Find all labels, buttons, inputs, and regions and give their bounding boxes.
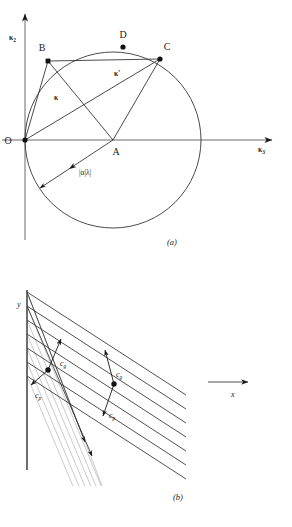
magnitude-label: |α|λ|	[79, 168, 91, 177]
ray-arrows	[27, 292, 92, 456]
velocity-label-cg-left: cg	[60, 359, 67, 369]
vector-label-kappa: κ	[54, 93, 59, 102]
velocity-label-cg-right: cg	[116, 370, 123, 380]
panel-b-y-axis-label: y	[16, 300, 21, 309]
point-label-D: D	[119, 29, 126, 40]
panel-a-x-axis-label: κ3	[258, 145, 265, 155]
panel-b: cg cp cg cp y x (b)	[16, 290, 248, 527]
panel-b-x-axis-label: x	[230, 390, 235, 399]
point-dot-O	[22, 137, 27, 142]
panel-a-y-axis-label: κ2	[9, 33, 16, 43]
segment-B-C	[48, 59, 160, 61]
panel-b-caption: (b)	[173, 492, 183, 502]
velocity-label-cp-right: cp	[109, 411, 116, 421]
point-label-A: A	[112, 146, 120, 157]
panel-a-caption: (a)	[167, 237, 177, 247]
crest-family	[27, 292, 186, 479]
velocity-label-cp-left: cp	[35, 391, 42, 401]
point-label-B: B	[39, 42, 46, 53]
point-label-C: C	[164, 41, 171, 52]
point-dot-D	[120, 44, 125, 49]
magnitude-arrow	[40, 140, 113, 188]
physics-figure: O A B C D κ2 κ3 κ κ′ |α|λ| (a)	[0, 0, 292, 527]
point-dot-B	[46, 59, 51, 64]
point-label-O: O	[4, 135, 11, 146]
cg-arrow-right	[105, 350, 114, 384]
panel-a: O A B C D κ2 κ3 κ κ′ |α|λ| (a)	[2, 14, 272, 247]
vector-label-kappa-prime: κ′	[114, 69, 120, 78]
point-dot-C	[157, 56, 162, 61]
